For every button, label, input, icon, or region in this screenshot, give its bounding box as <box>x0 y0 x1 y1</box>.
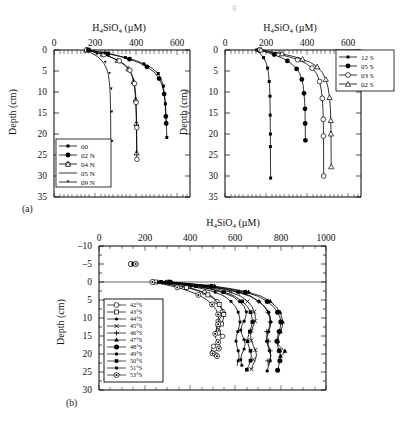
panel-c-legend-label-5: 47°S <box>130 336 143 343</box>
panel-a-ytick-15: 15 <box>38 108 48 118</box>
panel-a-xtick-600: 600 <box>170 38 185 48</box>
panel-b-legend: 12 S 05 S 03 S 02 S <box>336 50 394 91</box>
panel-c-ytick-5: 5 <box>87 295 92 305</box>
panel-c-ytick-m5: –5 <box>82 259 93 269</box>
panel-b-xtick-0: 0 <box>223 38 228 48</box>
panel-a-legend: 00 02 N 04 N 05 N 09 N <box>56 139 111 187</box>
panel-c-xtick-800: 800 <box>274 233 289 243</box>
panel-b-ytick-10: 10 <box>209 87 219 97</box>
panel-c-xtick-1000: 1000 <box>317 233 336 243</box>
panel-c-legend-label-2: 44°S <box>130 315 143 322</box>
panel-c-ylabel: Depth (cm) <box>55 299 67 345</box>
panel-c-legend: 42°S 43°S 44°S 45°S 46°S 47°S 48°S 49°S … <box>104 299 163 382</box>
panel-c-xtick-0: 0 <box>97 233 102 243</box>
panel-c-ytick-20: 20 <box>83 349 93 359</box>
legend-marker-12S <box>347 56 350 59</box>
figure-silicic-acid-porewater-profiles: g H4SiO4 (µM) 0 200 400 600 Depth (cm) 0… <box>0 0 414 423</box>
panel-b-ytick-25: 25 <box>209 150 219 160</box>
panel-a-legend-label-0: 00 <box>81 143 89 151</box>
panel-b-xtick-400: 400 <box>300 38 315 48</box>
panel-a-ylabel: Depth (cm) <box>7 89 19 135</box>
panel-c-xtick-400: 400 <box>183 233 198 243</box>
legend-marker-02N <box>66 153 71 158</box>
panel-a-legend-label-4: 09 N <box>81 179 95 187</box>
legend-marker-43S <box>115 310 119 314</box>
legend-marker-44S <box>115 317 118 320</box>
panel-c-ytick-0: 0 <box>87 277 92 287</box>
panel-c-legend-label-8: 50°S <box>130 357 143 364</box>
panel-b-ytick-15: 15 <box>209 108 219 118</box>
panel-a-xtick-0: 0 <box>52 38 57 48</box>
legend-marker-05S <box>346 64 351 69</box>
panel-a-legend-label-3: 05 N <box>81 170 95 178</box>
page-bleed-artifact: g <box>232 1 237 11</box>
panel-c-legend-label-7: 49°S <box>130 350 143 357</box>
panel-b-ytick-30: 30 <box>209 171 219 181</box>
panel-b-ytick-5: 5 <box>213 66 218 76</box>
panel-b-ytick-0: 0 <box>213 45 218 55</box>
panel-c-xtick-200: 200 <box>138 233 153 243</box>
panel-c-ytick-25: 25 <box>83 367 93 377</box>
panel-c-label: (b) <box>66 398 77 409</box>
panel-b-legend-label-0: 12 S <box>361 54 374 62</box>
legend-marker-53S-dot <box>116 374 118 376</box>
panel-c-bottom-water-points <box>128 261 138 266</box>
panel-c-legend-label-4: 46°S <box>130 329 143 336</box>
legend-marker-48S <box>114 345 119 350</box>
panel-a-label: (a) <box>22 204 33 215</box>
panel-b-xtick-200: 200 <box>259 38 274 48</box>
panel-b-legend-label-2: 03 S <box>361 72 374 80</box>
panel-c-ytick-30: 30 <box>83 385 93 395</box>
legend-marker-00 <box>67 145 70 148</box>
figure-canvas: g H4SiO4 (µM) 0 200 400 600 Depth (cm) 0… <box>0 0 414 423</box>
panel-c-legend-label-1: 43°S <box>130 308 143 315</box>
panel-b-legend-label-1: 05 S <box>361 63 374 71</box>
panel-c-xtick-600: 600 <box>228 233 243 243</box>
panel-c-legend-label-6: 48°S <box>130 343 143 350</box>
panel-b-ytick-20: 20 <box>209 129 219 139</box>
panel-c-ytick-10: 10 <box>83 313 93 323</box>
legend-marker-51S <box>115 367 118 370</box>
legend-marker-50S <box>115 359 119 363</box>
panel-b-legend-label-3: 02 S <box>361 81 374 89</box>
panel-c-ytick-15: 15 <box>83 331 93 341</box>
panel-a-ytick-5: 5 <box>42 66 47 76</box>
panel-b-xtick-600: 600 <box>341 38 356 48</box>
panel-c-legend-label-0: 42°S <box>130 301 143 308</box>
panel-c-legend-label-3: 45°S <box>130 322 143 329</box>
panel-a-xtick-400: 400 <box>129 38 144 48</box>
panel-a-ytick-10: 10 <box>38 87 48 97</box>
panel-a-ytick-35: 35 <box>38 192 48 202</box>
panel-a-legend-label-1: 02 N <box>81 152 95 160</box>
panel-c-legend-label-10: 53°S <box>130 371 143 378</box>
panel-a-ytick-0: 0 <box>42 45 47 55</box>
panel-c-ytick-m10: –10 <box>77 241 93 251</box>
legend-marker-42S <box>114 303 119 308</box>
panel-a-xtick-200: 200 <box>88 38 103 48</box>
legend-marker-49S <box>115 352 118 355</box>
panel-a-ytick-30: 30 <box>38 171 48 181</box>
legend-marker-03S <box>346 73 351 78</box>
panel-a-legend-label-2: 04 N <box>81 161 95 169</box>
panel-c-legend-label-9: 51°S <box>130 364 143 371</box>
panel-a-ytick-20: 20 <box>38 129 48 139</box>
panel-a-ytick-25: 25 <box>38 150 48 160</box>
panel-b-ylabel: Depth (cm) <box>178 89 190 135</box>
panel-b-ytick-35: 35 <box>209 192 219 202</box>
